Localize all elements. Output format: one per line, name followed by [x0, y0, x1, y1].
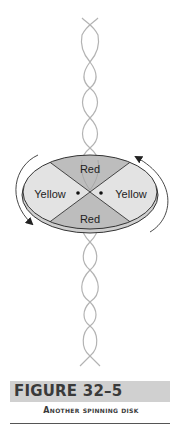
caption-divider [10, 423, 170, 424]
spinning-disk-diagram: Red Yellow Yellow Red [0, 0, 182, 375]
figure-caption: Another spinning disk [0, 406, 182, 415]
label-bottom-red: Red [80, 213, 100, 225]
lower-twisted-string [80, 226, 100, 366]
figure-number: FIGURE 32–5 [14, 381, 122, 402]
label-right-yellow: Yellow [115, 188, 146, 200]
label-top-red: Red [80, 163, 100, 175]
pivot-dot-right [99, 191, 103, 195]
label-left-yellow: Yellow [34, 188, 65, 200]
pivot-dot-left [76, 191, 80, 195]
upper-twisted-string [81, 18, 98, 162]
